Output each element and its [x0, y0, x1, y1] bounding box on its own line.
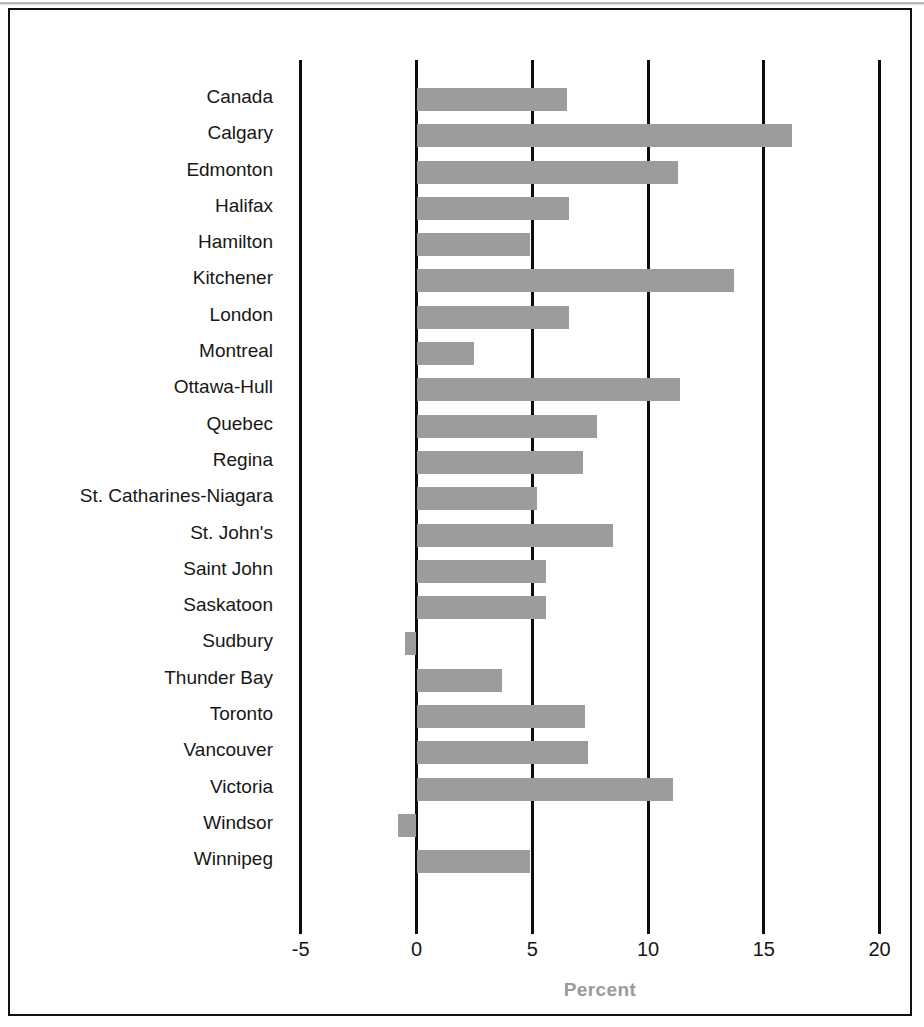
- category-label: St. Catharines-Niagara: [0, 485, 273, 507]
- category-label: Calgary: [0, 122, 273, 144]
- category-label: Ottawa-Hull: [0, 376, 273, 398]
- bar: [417, 451, 584, 474]
- bar-row: Edmonton: [0, 153, 924, 189]
- bar: [417, 378, 681, 401]
- category-label: Victoria: [0, 776, 273, 798]
- x-tick-label: 10: [618, 938, 678, 961]
- bar-row: Halifax: [0, 189, 924, 225]
- bar: [417, 669, 503, 692]
- bar-row: Saint John: [0, 552, 924, 588]
- bar: [417, 342, 475, 365]
- x-tick-label: 5: [502, 938, 562, 961]
- bar-row: Toronto: [0, 697, 924, 733]
- bar-row: Vancouver: [0, 733, 924, 769]
- bar: [405, 632, 417, 655]
- category-label: Saint John: [0, 558, 273, 580]
- plot-area: CanadaCalgaryEdmontonHalifaxHamiltonKitc…: [0, 0, 924, 1027]
- x-tick-label: 15: [734, 938, 794, 961]
- category-label: Thunder Bay: [0, 667, 273, 689]
- bar-row: Hamilton: [0, 225, 924, 261]
- bar-row: Regina: [0, 443, 924, 479]
- bar: [417, 161, 679, 184]
- category-label: London: [0, 304, 273, 326]
- bar-row: Kitchener: [0, 261, 924, 297]
- bar-row: Sudbury: [0, 624, 924, 660]
- category-label: Winnipeg: [0, 848, 273, 870]
- bar: [398, 814, 417, 837]
- category-label: Canada: [0, 86, 273, 108]
- bar: [417, 596, 547, 619]
- bar-row: Calgary: [0, 116, 924, 152]
- category-label: Regina: [0, 449, 273, 471]
- category-label: Sudbury: [0, 630, 273, 652]
- bar: [417, 741, 588, 764]
- bar: [417, 88, 567, 111]
- category-label: Halifax: [0, 195, 273, 217]
- bar: [417, 524, 614, 547]
- bar-row: Thunder Bay: [0, 661, 924, 697]
- bar: [417, 705, 586, 728]
- bar-row: St. Catharines-Niagara: [0, 479, 924, 515]
- category-label: Kitchener: [0, 267, 273, 289]
- bar-row: Winnipeg: [0, 842, 924, 878]
- category-label: Edmonton: [0, 159, 273, 181]
- bar-row: London: [0, 298, 924, 334]
- x-tick-label: 0: [387, 938, 447, 961]
- bar: [417, 560, 547, 583]
- bar: [417, 124, 792, 147]
- x-axis-title: Percent: [540, 979, 660, 1001]
- category-label: Vancouver: [0, 739, 273, 761]
- bar-row: Victoria: [0, 770, 924, 806]
- bar: [417, 415, 598, 438]
- x-tick-label: 20: [850, 938, 910, 961]
- bar-rows-group: CanadaCalgaryEdmontonHalifaxHamiltonKitc…: [0, 80, 924, 879]
- bar-row: St. John's: [0, 516, 924, 552]
- category-label: Montreal: [0, 340, 273, 362]
- bar: [417, 197, 570, 220]
- bar: [417, 233, 530, 256]
- category-label: Saskatoon: [0, 594, 273, 616]
- category-label: Windsor: [0, 812, 273, 834]
- bar-row: Montreal: [0, 334, 924, 370]
- bar-row: Canada: [0, 80, 924, 116]
- chart-figure: CanadaCalgaryEdmontonHalifaxHamiltonKitc…: [0, 0, 924, 1027]
- bar: [417, 269, 734, 292]
- x-tick-label: -5: [271, 938, 331, 961]
- category-label: Hamilton: [0, 231, 273, 253]
- bar: [417, 778, 674, 801]
- category-label: St. John's: [0, 522, 273, 544]
- bar: [417, 487, 537, 510]
- bar-row: Ottawa-Hull: [0, 370, 924, 406]
- category-label: Toronto: [0, 703, 273, 725]
- bar: [417, 850, 530, 873]
- bar-row: Windsor: [0, 806, 924, 842]
- category-label: Quebec: [0, 413, 273, 435]
- bar-row: Quebec: [0, 407, 924, 443]
- bar: [417, 306, 570, 329]
- bar-row: Saskatoon: [0, 588, 924, 624]
